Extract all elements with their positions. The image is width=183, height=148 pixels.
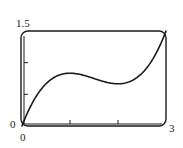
y-ticks [24, 63, 28, 95]
y-min-label: 0 [10, 119, 16, 130]
y-max-label: 1.5 [16, 18, 30, 29]
x-min-label: 0 [20, 132, 26, 143]
function-curve [22, 31, 166, 126]
x-max-label: 3 [169, 123, 175, 134]
x-ticks [70, 120, 118, 124]
